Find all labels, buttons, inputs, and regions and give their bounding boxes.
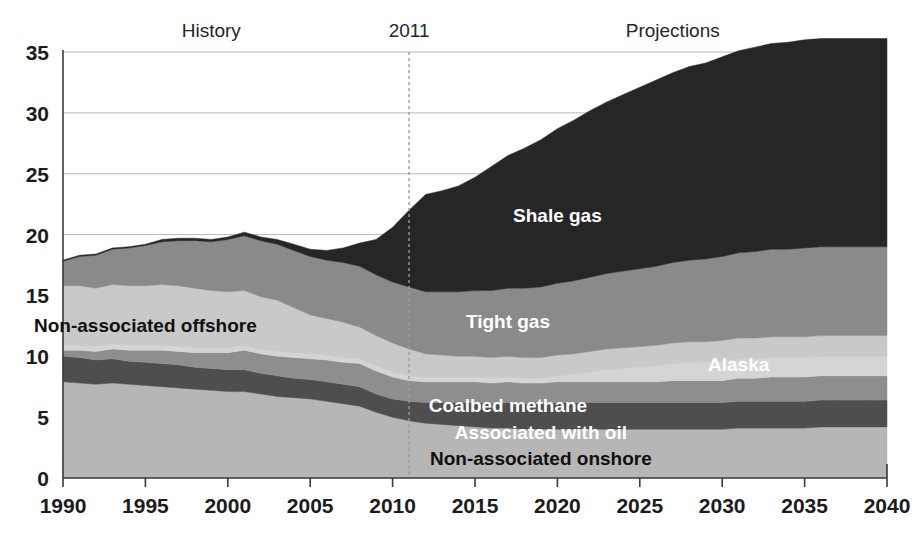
y-tick-label-5: 5 (37, 406, 49, 429)
series-label-coalbed-methane: Coalbed methane (429, 395, 587, 416)
x-tick-label-1990: 1990 (40, 494, 87, 517)
stacked-area-chart: 05101520253035 1990199520002005201020152… (0, 0, 923, 537)
y-tick-label-30: 30 (26, 102, 49, 125)
y-tick-label-15: 15 (26, 284, 50, 307)
series-label-non-associated-offshore: Non-associated offshore (34, 315, 257, 336)
chart-canvas: 05101520253035 1990199520002005201020152… (0, 0, 923, 537)
history-label: History (182, 20, 242, 41)
y-tick-label-0: 0 (37, 467, 49, 490)
x-tick-label-2015: 2015 (452, 494, 499, 517)
y-tick-label-25: 25 (26, 163, 50, 186)
x-tick-label-1995: 1995 (122, 494, 169, 517)
projection-divider-label: 2011 (389, 20, 430, 41)
x-tick-label-2040: 2040 (864, 494, 911, 517)
y-tick-label-20: 20 (26, 224, 49, 247)
x-tick-label-2030: 2030 (699, 494, 746, 517)
projections-label: Projections (626, 20, 720, 41)
series-label-shale-gas: Shale gas (513, 205, 602, 226)
x-tick-label-2025: 2025 (616, 494, 663, 517)
series-label-associated-with-oil: Associated with oil (455, 422, 627, 443)
series-label-non-associated-onshore: Non-associated onshore (430, 448, 652, 469)
x-tick-label-2005: 2005 (287, 494, 334, 517)
x-tick-label-2035: 2035 (781, 494, 828, 517)
y-tick-label-10: 10 (26, 345, 49, 368)
x-tick-label-2010: 2010 (369, 494, 416, 517)
y-tick-label-35: 35 (26, 41, 50, 64)
x-tick-label-2000: 2000 (204, 494, 251, 517)
x-tick-label-2020: 2020 (534, 494, 581, 517)
series-label-alaska: Alaska (708, 354, 770, 375)
series-label-tight-gas: Tight gas (466, 311, 550, 332)
